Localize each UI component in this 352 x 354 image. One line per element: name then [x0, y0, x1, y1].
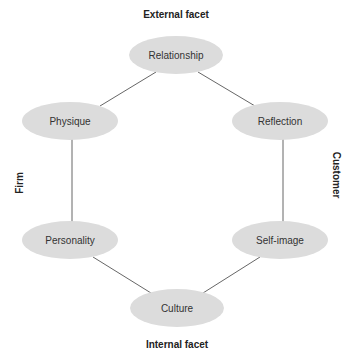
edges: [72, 72, 283, 293]
edge-relationship-reflection: [198, 72, 255, 106]
node-physique: Physique: [22, 102, 118, 140]
node-reflection: Reflection: [232, 102, 328, 140]
node-label-physique: Physique: [49, 116, 91, 127]
node-relationship: Relationship: [129, 36, 223, 74]
label-internal-facet: Internal facet: [146, 339, 209, 350]
label-external-facet: External facet: [143, 9, 209, 20]
node-label-relationship: Relationship: [148, 50, 203, 61]
node-culture: Culture: [130, 289, 224, 327]
edge-relationship-physique: [100, 72, 156, 106]
edge-self-image-culture: [203, 257, 260, 293]
label-customer: Customer: [331, 152, 342, 199]
label-firm: Firm: [14, 172, 25, 194]
brand-identity-prism-diagram: Relationship Physique Reflection Persona…: [0, 0, 352, 354]
node-label-personality: Personality: [45, 235, 94, 246]
node-label-self-image: Self-image: [256, 235, 304, 246]
node-personality: Personality: [22, 221, 118, 259]
edge-personality-culture: [93, 257, 151, 293]
node-label-reflection: Reflection: [258, 116, 302, 127]
node-label-culture: Culture: [161, 303, 194, 314]
node-self-image: Self-image: [232, 221, 328, 259]
